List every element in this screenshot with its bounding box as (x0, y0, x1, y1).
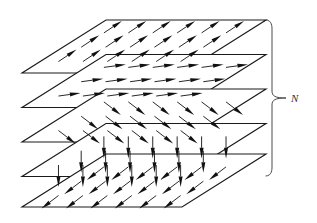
layer-stack-diagram: N (0, 0, 317, 223)
spin-layer-stack-figure: N (0, 0, 317, 223)
brace-label-N: N (290, 92, 299, 104)
brace-icon (266, 20, 286, 176)
layer-count-brace (266, 20, 286, 176)
